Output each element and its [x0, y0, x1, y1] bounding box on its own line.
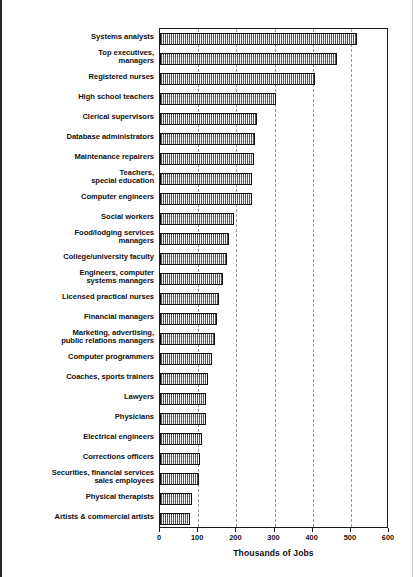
bar-row [160, 313, 387, 324]
bar-row [160, 33, 387, 44]
category-label: Social workers [4, 213, 154, 222]
category-label: Registered nurses [4, 73, 154, 82]
bar [160, 233, 229, 244]
tick-label-0: 0 [144, 533, 174, 542]
tick-mark-500 [350, 528, 351, 532]
tick-mark-0 [159, 528, 160, 532]
category-label: Teachers, special education [4, 169, 154, 186]
bar [160, 53, 337, 64]
category-label: Securities, financial services sales emp… [4, 469, 154, 486]
bar [160, 273, 223, 284]
tick-label-500: 500 [335, 533, 365, 542]
bar [160, 153, 254, 164]
bar-row [160, 153, 387, 164]
tick-label-100: 100 [182, 533, 212, 542]
bar-row [160, 493, 387, 504]
category-label: Engineers, computer systems managers [4, 269, 154, 286]
bar [160, 313, 217, 324]
category-label: High school teachers [4, 93, 154, 102]
bar-rows [160, 29, 387, 527]
bar-chart-figure: Systems analystsTop executives, managers… [0, 0, 413, 577]
bar-row [160, 393, 387, 404]
bar-row [160, 73, 387, 84]
category-label: Physicians [4, 413, 154, 422]
tick-mark-300 [274, 528, 275, 532]
category-label: Financial managers [4, 313, 154, 322]
bar [160, 333, 215, 344]
bar [160, 373, 208, 384]
bar-row [160, 113, 387, 124]
category-label: Top executives, managers [4, 49, 154, 66]
bar [160, 393, 206, 404]
category-label: Clerical supervisors [4, 113, 154, 122]
bar-row [160, 353, 387, 364]
bar [160, 113, 257, 124]
bar [160, 433, 202, 444]
bar-row [160, 293, 387, 304]
bar-row [160, 273, 387, 284]
category-label: Database administrators [4, 133, 154, 142]
category-label: Corrections officers [4, 453, 154, 462]
bar-row [160, 213, 387, 224]
bar-row [160, 193, 387, 204]
tick-label-600: 600 [373, 533, 403, 542]
bar-row [160, 373, 387, 384]
category-label: Licensed practical nurses [4, 293, 154, 302]
bar [160, 73, 315, 84]
bar [160, 33, 357, 44]
bar-row [160, 453, 387, 464]
bar-row [160, 233, 387, 244]
category-label: Physical therapists [4, 493, 154, 502]
tick-mark-600 [388, 528, 389, 532]
bar-row [160, 93, 387, 104]
bar [160, 473, 199, 484]
source-caption [40, 569, 390, 577]
tick-label-200: 200 [220, 533, 250, 542]
bar [160, 93, 276, 104]
bar-row [160, 133, 387, 144]
bar-row [160, 333, 387, 344]
category-label: Systems analysts [4, 33, 154, 42]
bar-row [160, 433, 387, 444]
bar [160, 493, 192, 504]
x-axis-title: Thousands of Jobs [159, 548, 388, 558]
bar-row [160, 53, 387, 64]
bar [160, 133, 255, 144]
category-label: Computer engineers [4, 193, 154, 202]
tick-mark-200 [235, 528, 236, 532]
category-label: Maintenance repairers [4, 153, 154, 162]
bar-row [160, 473, 387, 484]
bar-row [160, 413, 387, 424]
bar [160, 293, 219, 304]
tick-label-400: 400 [297, 533, 327, 542]
bar-row [160, 173, 387, 184]
category-label: Computer programmers [4, 353, 154, 362]
plot-area [159, 28, 388, 528]
tick-label-300: 300 [259, 533, 289, 542]
category-label: Electrical engineers [4, 433, 154, 442]
bar [160, 353, 212, 364]
bar [160, 453, 200, 464]
category-label: College/university faculty [4, 253, 154, 262]
category-label: Food/lodging services managers [4, 229, 154, 246]
category-label: Coaches, sports trainers [4, 373, 154, 382]
category-label: Artists & commercial artists [4, 513, 154, 522]
bar-row [160, 253, 387, 264]
bar [160, 253, 227, 264]
tick-mark-400 [312, 528, 313, 532]
category-label: Lawyers [4, 393, 154, 402]
bar [160, 173, 252, 184]
bar [160, 193, 252, 204]
bar-row [160, 513, 387, 524]
bar [160, 413, 206, 424]
bar [160, 513, 190, 524]
tick-mark-100 [197, 528, 198, 532]
bar [160, 213, 234, 224]
category-label: Marketing, advertising, public relations… [4, 329, 154, 346]
